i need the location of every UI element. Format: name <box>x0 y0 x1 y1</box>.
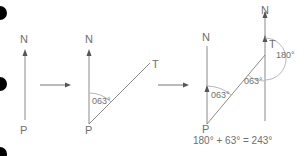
angle-label: 063° <box>92 96 111 106</box>
bullet-3 <box>0 147 7 156</box>
point-p-label: P <box>20 124 27 136</box>
straight-angle-label: 180° <box>276 50 295 60</box>
north-arrowhead <box>87 49 92 56</box>
panel-1: N P <box>20 33 28 136</box>
bullet-1 <box>0 6 7 20</box>
point-p-label: P <box>85 124 92 136</box>
angle-at-t-label: 063° <box>244 76 263 86</box>
north-label: N <box>85 33 93 45</box>
transition-arrow-1 <box>40 83 71 88</box>
north-label-p: N <box>202 31 210 43</box>
panel-3: N N P T 063° 063° 180° 180° + 63° = 243° <box>193 4 295 146</box>
angle-at-p-label: 063° <box>211 90 230 100</box>
north-label: N <box>20 33 28 45</box>
bearing-equation: 180° + 63° = 243° <box>193 135 272 146</box>
point-t-label: T <box>269 38 276 50</box>
point-t-label: T <box>152 58 159 70</box>
bullet-2 <box>0 77 7 91</box>
bearing-diagram: N P N P T 063° N N P <box>0 0 306 156</box>
transition-arrow-2 <box>158 83 189 88</box>
north-label-t: N <box>261 4 269 16</box>
panel-2: N P T 063° <box>85 33 159 136</box>
point-p-label: P <box>202 123 209 135</box>
north-arrowhead <box>23 49 28 56</box>
